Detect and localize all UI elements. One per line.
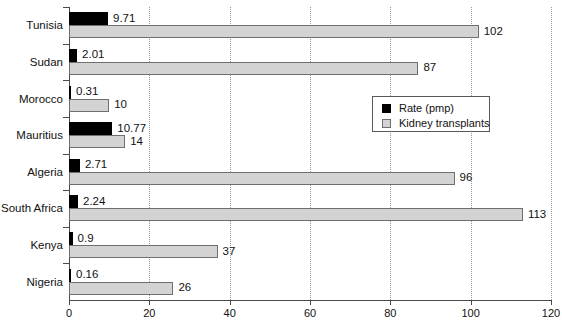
y-tick-mark-2 bbox=[63, 80, 69, 81]
bar-mauritius-rate bbox=[69, 122, 112, 135]
x-tick-label-80: 80 bbox=[384, 307, 396, 319]
legend-swatch-rate-icon bbox=[382, 104, 391, 113]
y-axis-label-sudan: Sudan bbox=[0, 56, 63, 68]
legend-item-rate: Rate (pmp) bbox=[382, 101, 489, 115]
bar-value-label-kenya-rate: 0.9 bbox=[78, 233, 94, 245]
plot-area: 9.711022.01870.311010.77142.71962.241130… bbox=[69, 7, 551, 300]
y-axis-label-south-africa: South Africa bbox=[0, 202, 63, 214]
bar-mauritius-transplants bbox=[69, 135, 125, 148]
y-axis-label-morocco: Morocco bbox=[0, 93, 63, 105]
bar-morocco-rate bbox=[69, 86, 71, 99]
bar-sudan-rate bbox=[69, 49, 77, 62]
bar-kenya-rate bbox=[69, 232, 73, 245]
y-axis-label-kenya: Kenya bbox=[0, 239, 63, 251]
bar-value-label-mauritius-transplants: 14 bbox=[130, 136, 143, 148]
gridline-x-100 bbox=[471, 7, 472, 300]
bar-chart: TunisiaSudanMoroccoMauritiusAlgeriaSouth… bbox=[0, 0, 562, 326]
bar-value-label-sudan-rate: 2.01 bbox=[82, 49, 104, 61]
legend-swatch-transplants-icon bbox=[382, 119, 391, 128]
bar-tunisia-rate bbox=[69, 12, 108, 25]
y-axis-label-algeria: Algeria bbox=[0, 166, 63, 178]
gridline-x-80 bbox=[390, 7, 391, 300]
y-tick-mark-0 bbox=[63, 7, 69, 8]
bar-value-label-south-africa-transplants: 113 bbox=[528, 209, 546, 221]
gridline-x-60 bbox=[310, 7, 311, 300]
y-tick-mark-6 bbox=[63, 227, 69, 228]
y-axis-label-mauritius: Mauritius bbox=[0, 129, 63, 141]
bar-algeria-rate bbox=[69, 159, 80, 172]
y-tick-mark-5 bbox=[63, 190, 69, 191]
bar-value-label-tunisia-rate: 9.71 bbox=[113, 13, 135, 25]
x-tick-mark-60 bbox=[310, 300, 311, 305]
bar-value-label-tunisia-transplants: 102 bbox=[484, 26, 503, 38]
x-tick-label-60: 60 bbox=[304, 307, 316, 319]
x-tick-label-20: 20 bbox=[143, 307, 155, 319]
legend-item-kidney-transplants: Kidney transplants bbox=[382, 116, 489, 130]
x-tick-mark-100 bbox=[471, 300, 472, 305]
bar-nigeria-transplants bbox=[69, 282, 173, 295]
bar-value-label-morocco-rate: 0.31 bbox=[76, 86, 98, 98]
bar-morocco-transplants bbox=[69, 99, 109, 112]
bar-value-label-kenya-transplants: 37 bbox=[223, 246, 236, 258]
y-tick-mark-4 bbox=[63, 154, 69, 155]
bar-sudan-transplants bbox=[69, 62, 418, 75]
bar-value-label-south-africa-rate: 2.24 bbox=[83, 196, 105, 208]
bar-value-label-algeria-rate: 2.71 bbox=[85, 159, 107, 171]
gridline-x-120 bbox=[551, 7, 552, 300]
x-tick-mark-80 bbox=[390, 300, 391, 305]
y-tick-mark-7 bbox=[63, 263, 69, 264]
bar-value-label-algeria-transplants: 96 bbox=[460, 172, 473, 184]
x-tick-mark-120 bbox=[551, 300, 552, 305]
bar-nigeria-rate bbox=[69, 269, 71, 282]
chart-legend: Rate (pmp) Kidney transplants bbox=[372, 96, 490, 132]
legend-label-rate: Rate (pmp) bbox=[399, 102, 454, 114]
x-tick-label-100: 100 bbox=[461, 307, 479, 319]
bar-value-label-mauritius-rate: 10.77 bbox=[117, 123, 146, 135]
bar-value-label-morocco-transplants: 10 bbox=[114, 99, 127, 111]
bar-value-label-sudan-transplants: 87 bbox=[423, 62, 436, 74]
x-tick-mark-40 bbox=[230, 300, 231, 305]
x-tick-mark-0 bbox=[69, 300, 70, 305]
y-axis-label-nigeria: Nigeria bbox=[0, 276, 63, 288]
bar-tunisia-transplants bbox=[69, 25, 479, 38]
bar-algeria-transplants bbox=[69, 172, 455, 185]
bar-value-label-nigeria-transplants: 26 bbox=[178, 282, 191, 294]
y-tick-mark-1 bbox=[63, 44, 69, 45]
x-tick-label-120: 120 bbox=[542, 307, 560, 319]
bar-value-label-nigeria-rate: 0.16 bbox=[76, 269, 98, 281]
x-tick-label-0: 0 bbox=[66, 307, 72, 319]
bar-south-africa-rate bbox=[69, 195, 78, 208]
y-tick-mark-3 bbox=[63, 117, 69, 118]
legend-label-kidney-transplants: Kidney transplants bbox=[399, 117, 490, 129]
bar-south-africa-transplants bbox=[69, 208, 523, 221]
x-tick-label-40: 40 bbox=[224, 307, 236, 319]
x-tick-mark-20 bbox=[149, 300, 150, 305]
y-axis-labels: TunisiaSudanMoroccoMauritiusAlgeriaSouth… bbox=[0, 0, 63, 326]
bar-kenya-transplants bbox=[69, 245, 218, 258]
y-axis-label-tunisia: Tunisia bbox=[0, 19, 63, 31]
